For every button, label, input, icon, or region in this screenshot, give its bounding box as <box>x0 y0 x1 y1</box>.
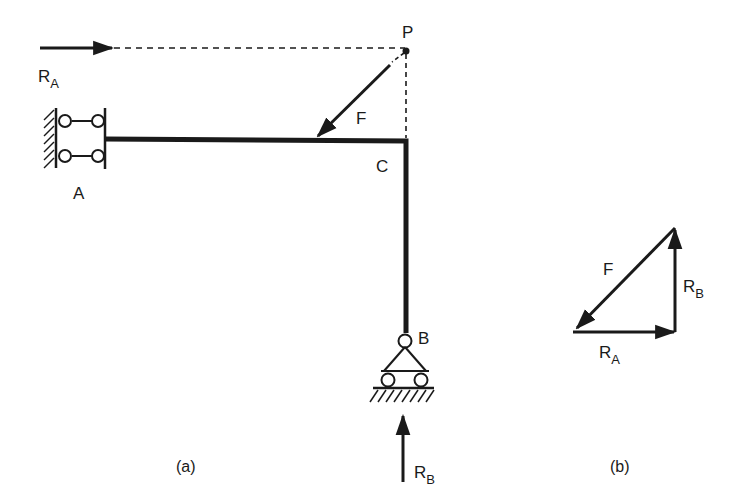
label-triangle-rb: RB <box>683 277 704 301</box>
triangle-force-f <box>577 228 675 328</box>
diagram-canvas: RA P F C <box>0 0 739 503</box>
label-f: F <box>356 109 366 128</box>
force-f-arrow <box>318 65 390 136</box>
figure-a: RA P F C <box>38 23 435 487</box>
label-triangle-f: F <box>603 260 613 279</box>
label-p: P <box>402 23 413 42</box>
label-ra: RA <box>38 67 59 91</box>
frame-member <box>105 139 406 333</box>
support-a <box>44 108 105 169</box>
label-triangle-ra: RA <box>599 343 620 367</box>
label-c: C <box>376 157 388 176</box>
label-b: B <box>418 329 429 348</box>
caption-a: (a) <box>176 458 196 475</box>
label-a: A <box>73 184 85 203</box>
f-line-of-action <box>392 53 404 62</box>
figure-b: F RB RA (b) <box>573 228 704 475</box>
label-rb: RB <box>414 463 435 487</box>
caption-b: (b) <box>610 458 630 475</box>
